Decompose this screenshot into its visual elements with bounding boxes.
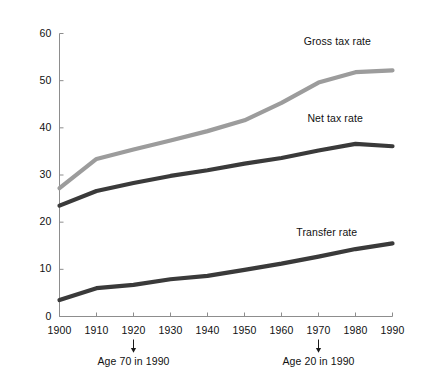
x-axis-tick-label: 1950: [225, 324, 265, 336]
x-axis-tick-label: 1980: [336, 324, 376, 336]
x-axis-tick-label: 1910: [77, 324, 117, 336]
series-line-gross-tax-rate: [60, 70, 393, 188]
annotation-arrows: [131, 340, 321, 353]
series-line-net-tax-rate: [60, 144, 393, 206]
series-label-gross-tax-rate: Gross tax rate: [304, 35, 371, 47]
annotation-label: Age 20 in 1990: [244, 355, 394, 367]
x-axis-tick-label: 1930: [151, 324, 191, 336]
tax-rate-line-chart: 0102030405060 19001910192019301940195019…: [0, 0, 440, 387]
annotation-arrow-head: [131, 348, 136, 353]
annotation-arrow-head: [316, 348, 321, 353]
y-axis-tick-label: 50: [26, 74, 52, 86]
y-axis-tick-label: 60: [26, 27, 52, 39]
y-axis-tick-label: 0: [26, 310, 52, 322]
x-axis-tick-label: 1970: [299, 324, 339, 336]
series-line-transfer-rate: [60, 243, 393, 300]
series-label-transfer-rate: Transfer rate: [296, 226, 357, 238]
x-axis-tick-label: 1940: [188, 324, 228, 336]
x-axis-tick-label: 1960: [262, 324, 302, 336]
y-axis-tick-label: 30: [26, 168, 52, 180]
x-axis-tick-label: 1900: [40, 324, 80, 336]
series-label-net-tax-rate: Net tax rate: [307, 112, 362, 124]
chart-series-lines: [60, 70, 393, 300]
y-axis-tick-label: 10: [26, 262, 52, 274]
y-axis-tick-label: 40: [26, 121, 52, 133]
x-axis-tick-label: 1920: [114, 324, 154, 336]
x-axis-tick-label: 1990: [373, 324, 413, 336]
y-axis-tick-label: 20: [26, 215, 52, 227]
annotation-label: Age 70 in 1990: [59, 355, 209, 367]
